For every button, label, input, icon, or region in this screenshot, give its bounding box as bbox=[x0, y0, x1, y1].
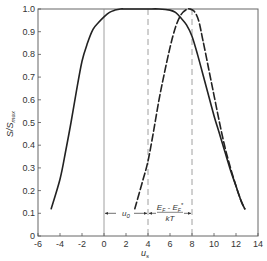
x-tick-label: -6 bbox=[34, 239, 42, 249]
y-tick-label: 0.2 bbox=[22, 186, 35, 196]
y-tick-label: 0.1 bbox=[22, 208, 35, 218]
data-series bbox=[51, 9, 245, 209]
x-tick-label: 2 bbox=[123, 239, 128, 249]
u0-label: u0 bbox=[122, 209, 130, 219]
x-tick-label: 6 bbox=[167, 239, 172, 249]
x-tick-label: 8 bbox=[189, 239, 194, 249]
x-axis-title: us bbox=[141, 248, 149, 259]
x-tick-label: 10 bbox=[209, 239, 219, 249]
y-tick-label: 0.5 bbox=[22, 118, 35, 128]
y-tick-label: 1.0 bbox=[22, 4, 35, 14]
x-tick-label: 4 bbox=[145, 239, 150, 249]
x-tick-label: -2 bbox=[78, 239, 86, 249]
y-tick-label: 0.7 bbox=[22, 72, 35, 82]
x-tick-label: 14 bbox=[253, 239, 263, 249]
y-tick-label: 0.6 bbox=[22, 95, 35, 105]
chart: 00.10.20.30.40.50.60.70.80.91.0 -6-4-202… bbox=[0, 0, 267, 261]
y-axis-title: S/Smax bbox=[5, 110, 16, 137]
series-dashed-line bbox=[135, 9, 245, 209]
x-tick-label: 0 bbox=[101, 239, 106, 249]
y-tick-label: 0.4 bbox=[22, 140, 35, 150]
y-tick-label: 0.9 bbox=[22, 27, 35, 37]
fermi-denominator: kT bbox=[166, 214, 176, 223]
x-axis: -6-4-202468101214 bbox=[34, 233, 263, 249]
x-tick-label: 12 bbox=[231, 239, 241, 249]
y-tick-label: 0.3 bbox=[22, 163, 35, 173]
x-tick-label: -4 bbox=[56, 239, 64, 249]
fermi-numerator: EF - EF* bbox=[157, 202, 184, 213]
y-tick-label: 0.8 bbox=[22, 49, 35, 59]
series-solid-line bbox=[51, 9, 245, 209]
reference-lines bbox=[104, 9, 192, 236]
